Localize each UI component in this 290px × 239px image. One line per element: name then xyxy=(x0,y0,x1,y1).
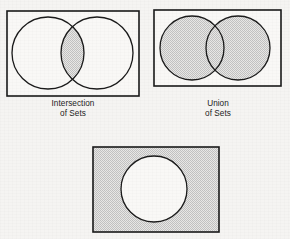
complement-unshaded-circle xyxy=(121,156,187,222)
union-caption-line-2: of Sets xyxy=(162,109,274,119)
complement-of-set-figure xyxy=(0,135,290,239)
union-caption-line-1: Union xyxy=(162,99,274,109)
union-caption: Union of Sets xyxy=(162,99,274,120)
union-of-sets-figure: Union of Sets xyxy=(0,0,290,130)
complement-venn-svg xyxy=(0,135,290,239)
